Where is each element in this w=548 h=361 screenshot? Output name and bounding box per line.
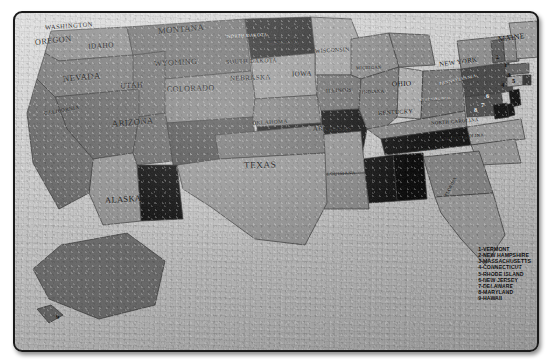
state-north-dakota	[245, 17, 315, 59]
legend-entry-5: 5-RHODE ISLAND	[478, 271, 531, 277]
us-states-svg	[15, 13, 537, 350]
map-number-marker-1: 1	[504, 61, 507, 68]
state-ohio	[421, 69, 465, 119]
map-number-marker-5: 5	[512, 77, 515, 84]
map-number-marker-3: 3	[507, 71, 510, 78]
state-arizona	[89, 153, 141, 225]
state-maryland	[493, 103, 509, 119]
state-new-mexico	[137, 165, 183, 221]
state-mississippi	[363, 155, 397, 203]
legend-entry-9: 9-HAWAII	[478, 295, 531, 301]
map-number-marker-2: 2	[496, 53, 499, 60]
map-number-marker-9: 9	[56, 313, 59, 320]
state-rhode-island	[523, 75, 531, 85]
state-south-dakota	[251, 53, 317, 99]
map-legend: 1-VERMONT2-NEW HAMPSHIRE3-MASSACHUSETTS4…	[478, 246, 531, 301]
map-number-marker-4: 4	[501, 81, 504, 88]
state-new-hampshire	[503, 37, 517, 61]
state-indiana	[397, 67, 423, 119]
state-iowa	[317, 75, 361, 111]
map-number-marker-8: 8	[474, 106, 477, 113]
map-screenshot: WASHINGTONOREGONIDAHOMONTANANORTH DAKOTA…	[0, 0, 548, 361]
state-wyoming	[165, 71, 255, 123]
map-panel: WASHINGTONOREGONIDAHOMONTANANORTH DAKOTA…	[13, 11, 539, 352]
map-number-marker-7: 7	[481, 101, 484, 108]
state-nebraska	[253, 95, 321, 127]
map-number-marker-6: 6	[486, 92, 489, 99]
state-texas	[177, 153, 327, 245]
states-group	[27, 17, 537, 323]
state-north-carolina	[467, 119, 525, 145]
state-alabama	[393, 153, 427, 201]
map-canvas: WASHINGTONOREGONIDAHOMONTANANORTH DAKOTA…	[15, 13, 537, 350]
